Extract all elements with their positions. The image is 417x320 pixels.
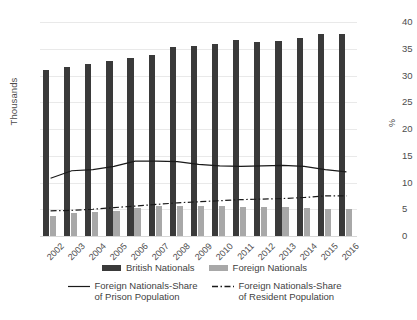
y-axis-right-tick: 5 — [402, 203, 417, 214]
legend-item[interactable]: Foreign Nationals — [209, 262, 307, 274]
y-axis-right-tick: 40 — [402, 16, 417, 27]
legend-label-line2: of Prison Population — [95, 291, 198, 303]
legend-dashdot-line-icon — [212, 282, 234, 291]
line-resident-population-share — [51, 196, 347, 211]
plot-area: 01020304050607080 0510152025303540 20022… — [40, 22, 357, 236]
legend-item[interactable]: Foreign Nationals-Shareof Prison Populat… — [68, 280, 198, 303]
legend-label: Foreign Nationals-Shareof Prison Populat… — [95, 280, 198, 303]
y-axis-right-title: % — [387, 112, 397, 134]
legend-row-lines: Foreign Nationals-Shareof Prison Populat… — [0, 280, 409, 303]
gridline — [40, 236, 357, 237]
y-axis-left-title: Thousands — [8, 62, 19, 142]
y-axis-right-tick: 30 — [402, 70, 417, 81]
legend-row-bars: British NationalsForeign Nationals — [0, 262, 409, 274]
legend-solid-line-icon — [68, 282, 90, 291]
y-axis-right-tick: 10 — [402, 177, 417, 188]
legend-label: British Nationals — [126, 262, 195, 274]
legend-label-line1: Foreign Nationals-Share — [95, 280, 198, 292]
legend-label-line1: Foreign Nationals-Share — [239, 280, 342, 292]
y-axis-right-tick: 35 — [402, 43, 417, 54]
legend-swatch-icon — [209, 265, 228, 271]
y-axis-right-tick: 0 — [402, 230, 417, 241]
line-prison-population-share — [51, 161, 347, 178]
legend-label-line2: of Resident Population — [239, 291, 342, 303]
line-series-group — [40, 22, 357, 236]
y-axis-right-tick: 20 — [402, 123, 417, 134]
legend-item[interactable]: Foreign Nationals-Shareof Resident Popul… — [212, 280, 342, 303]
y-axis-right-tick: 15 — [402, 150, 417, 161]
y-axis-right-tick: 25 — [402, 96, 417, 107]
chart-legend: British NationalsForeign Nationals Forei… — [0, 262, 409, 303]
legend-label: Foreign Nationals — [233, 262, 307, 274]
legend-label: Foreign Nationals-Shareof Resident Popul… — [239, 280, 342, 303]
legend-swatch-icon — [102, 265, 121, 271]
legend-item[interactable]: British Nationals — [102, 262, 195, 274]
